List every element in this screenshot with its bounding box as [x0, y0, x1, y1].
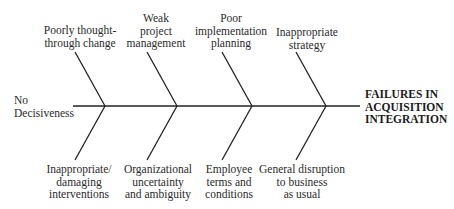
cause-line: damaging: [42, 176, 116, 189]
tail-line-2: Decisiveness: [14, 107, 74, 120]
lower-cause-3: Employee terms and conditions: [200, 163, 258, 201]
lower-cause-4: General disruption to business as usual: [252, 163, 352, 201]
upper-cause-3: Poor implementation planning: [188, 12, 274, 50]
cause-line: conditions: [200, 188, 258, 201]
cause-line: planning: [188, 37, 274, 50]
cause-line: Employee: [200, 163, 258, 176]
tail-label: No Decisiveness: [14, 94, 74, 119]
effect-line-2: ACQUISITION: [365, 101, 447, 114]
cause-line: through change: [35, 37, 125, 50]
effect-line-1: FAILURES IN: [365, 88, 447, 101]
cause-line: management: [116, 37, 196, 50]
cause-line: Inappropriate: [267, 26, 347, 39]
upper-branch-1: [75, 52, 105, 106]
lower-branch-4: [296, 106, 326, 160]
cause-line: Poorly thought-: [35, 24, 125, 37]
lower-branch-2: [147, 106, 177, 160]
cause-line: uncertainty: [116, 176, 200, 189]
upper-cause-4: Inappropriate strategy: [267, 26, 347, 51]
cause-line: Organizational: [116, 163, 200, 176]
cause-line: Inappropriate/: [42, 163, 116, 176]
cause-line: as usual: [252, 188, 352, 201]
tail-line-1: No: [14, 94, 74, 107]
lower-branch-1: [75, 106, 105, 160]
upper-cause-1: Poorly thought- through change: [35, 24, 125, 49]
cause-line: Poor: [188, 12, 274, 25]
effect-line-3: INTEGRATION: [365, 113, 447, 126]
cause-line: project: [116, 25, 196, 38]
upper-branch-2: [147, 52, 177, 106]
lower-cause-1: Inappropriate/ damaging interventions: [42, 163, 116, 201]
upper-cause-2: Weak project management: [116, 12, 196, 50]
upper-branch-4: [296, 52, 326, 106]
cause-line: strategy: [267, 39, 347, 52]
cause-line: General disruption: [252, 163, 352, 176]
cause-line: implementation: [188, 25, 274, 38]
upper-branch-3: [222, 52, 252, 106]
lower-branch-3: [222, 106, 252, 160]
cause-line: terms and: [200, 176, 258, 189]
effect-label: FAILURES IN ACQUISITION INTEGRATION: [365, 88, 447, 126]
cause-line: interventions: [42, 188, 116, 201]
cause-line: to business: [252, 176, 352, 189]
lower-cause-2: Organizational uncertainty and ambiguity: [116, 163, 200, 201]
cause-line: and ambiguity: [116, 188, 200, 201]
cause-line: Weak: [116, 12, 196, 25]
